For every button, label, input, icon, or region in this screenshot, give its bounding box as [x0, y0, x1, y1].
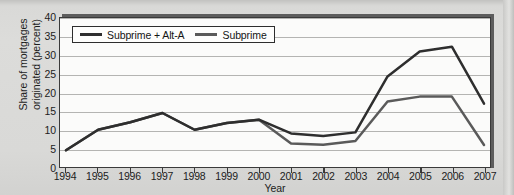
y-axis-title-line-1: Share of mortgages: [17, 0, 30, 135]
legend-line-swatch-icon: [195, 33, 217, 36]
legend-label: Subprime + Alt-A: [107, 29, 184, 41]
y-axis-title-line-2: originated (percent): [29, 0, 42, 135]
line-chart-figure: 0510152025303540 19941995199619971998199…: [0, 0, 514, 195]
y-axis-title: Share of mortgages originated (percent): [17, 0, 42, 135]
legend-entry: Subprime + Alt-A: [80, 29, 184, 41]
legend-label: Subprime: [222, 29, 266, 41]
y-axis-tick-label: 5: [2, 144, 56, 154]
chart-legend: Subprime + Alt-ASubprime: [72, 26, 275, 43]
legend-line-swatch-icon: [80, 33, 102, 36]
x-axis-tick-label: 2007: [465, 170, 505, 182]
x-axis-title: Year: [59, 182, 491, 194]
legend-entry: Subprime: [195, 29, 266, 41]
series-line: [66, 47, 484, 151]
